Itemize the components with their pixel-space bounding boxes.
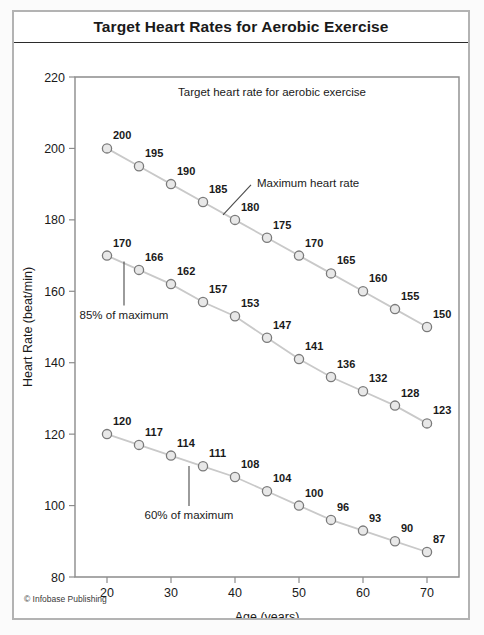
- data-point: [326, 269, 335, 278]
- x-axis-title: Age (years): [235, 610, 300, 618]
- data-label-170: 170: [305, 237, 323, 249]
- data-label-180: 180: [241, 201, 259, 213]
- y-tick-label-140: 140: [44, 356, 65, 370]
- data-point: [294, 251, 303, 260]
- data-point: [390, 537, 399, 546]
- data-label-170: 170: [113, 237, 131, 249]
- y-tick-label-220: 220: [44, 71, 65, 85]
- data-point: [198, 462, 207, 471]
- page-title: Target Heart Rates for Aerobic Exercise: [93, 18, 388, 36]
- data-point: [294, 501, 303, 510]
- data-point: [198, 197, 207, 206]
- data-label-155: 155: [401, 290, 419, 302]
- data-point: [230, 312, 239, 321]
- data-point: [358, 387, 367, 396]
- annotation-label-60-percent: 60% of maximum: [145, 509, 234, 521]
- x-tick-label-50: 50: [292, 586, 306, 600]
- chart-plot: 80100120140160180200220203040506070Age (…: [14, 43, 468, 618]
- data-label-100: 100: [305, 487, 323, 499]
- data-label-162: 162: [177, 265, 195, 277]
- data-label-93: 93: [369, 512, 381, 524]
- data-point: [358, 287, 367, 296]
- data-label-111: 111: [209, 447, 226, 459]
- data-label-128: 128: [401, 387, 419, 399]
- data-label-120: 120: [113, 415, 131, 427]
- figure-title-bar: Target Heart Rates for Aerobic Exercise: [14, 12, 468, 43]
- data-label-166: 166: [145, 251, 163, 263]
- y-tick-label-160: 160: [44, 285, 65, 299]
- data-label-175: 175: [273, 219, 291, 231]
- data-label-200: 200: [113, 129, 131, 141]
- annotation-label-85-percent: 85% of maximum: [80, 309, 169, 321]
- data-label-190: 190: [177, 165, 195, 177]
- data-point: [166, 180, 175, 189]
- data-point: [358, 526, 367, 535]
- data-point: [166, 280, 175, 289]
- data-point: [230, 472, 239, 481]
- x-tick-label-30: 30: [164, 586, 178, 600]
- data-point: [198, 297, 207, 306]
- x-tick-label-40: 40: [228, 586, 242, 600]
- data-label-136: 136: [337, 358, 355, 370]
- data-point: [102, 430, 111, 439]
- data-point: [390, 401, 399, 410]
- data-label-117: 117: [145, 426, 163, 438]
- data-label-108: 108: [241, 458, 259, 470]
- data-point: [102, 144, 111, 153]
- copyright-notice: © Infobase Publishing: [24, 594, 107, 604]
- y-tick-label-80: 80: [51, 571, 65, 585]
- data-label-90: 90: [401, 522, 413, 534]
- data-label-185: 185: [209, 183, 227, 195]
- y-tick-label-120: 120: [44, 428, 65, 442]
- data-label-160: 160: [369, 272, 387, 284]
- y-tick-label-200: 200: [44, 142, 65, 156]
- data-label-157: 157: [209, 283, 227, 295]
- data-point: [326, 372, 335, 381]
- data-point: [262, 487, 271, 496]
- annotation-label-maximum-heart-rate: Maximum heart rate: [257, 177, 359, 189]
- y-tick-label-180: 180: [44, 213, 65, 227]
- data-point: [134, 162, 143, 171]
- data-label-195: 195: [145, 147, 163, 159]
- data-point: [230, 215, 239, 224]
- y-tick-label-100: 100: [44, 499, 65, 513]
- data-label-123: 123: [433, 404, 451, 416]
- data-label-132: 132: [369, 372, 387, 384]
- data-point: [390, 305, 399, 314]
- data-label-104: 104: [273, 472, 292, 484]
- data-point: [326, 515, 335, 524]
- data-label-165: 165: [337, 254, 355, 266]
- data-label-87: 87: [433, 533, 445, 545]
- data-point: [422, 547, 431, 556]
- data-point: [422, 322, 431, 331]
- x-tick-label-60: 60: [356, 586, 370, 600]
- data-point: [262, 333, 271, 342]
- x-tick-label-70: 70: [420, 586, 434, 600]
- data-point: [134, 265, 143, 274]
- data-point: [422, 419, 431, 428]
- data-point: [166, 451, 175, 460]
- figure-canvas: Target Heart Rates for Aerobic Exercise …: [0, 0, 484, 635]
- data-label-141: 141: [305, 340, 323, 352]
- data-label-96: 96: [337, 501, 349, 513]
- data-point: [134, 440, 143, 449]
- y-axis-title: Heart Rate (beat/min): [21, 267, 35, 387]
- data-label-153: 153: [241, 297, 259, 309]
- data-point: [294, 355, 303, 364]
- data-label-114: 114: [177, 437, 196, 449]
- data-label-147: 147: [273, 319, 291, 331]
- data-point: [262, 233, 271, 242]
- data-label-150: 150: [433, 308, 451, 320]
- plot-frame: [75, 77, 459, 577]
- data-point: [102, 251, 111, 260]
- chart-subtitle: Target heart rate for aerobic exercise: [178, 86, 366, 98]
- figure-frame: Target Heart Rates for Aerobic Exercise …: [12, 10, 470, 620]
